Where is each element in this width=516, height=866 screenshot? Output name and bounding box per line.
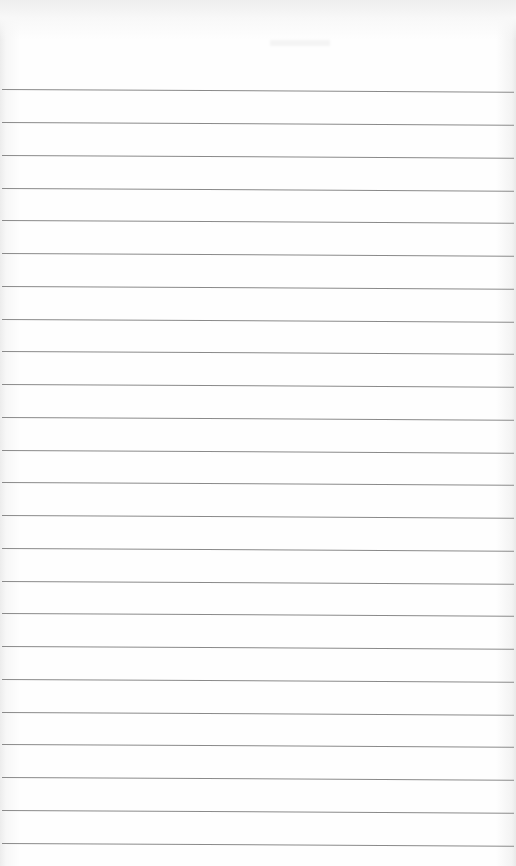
ruled-paper xyxy=(0,0,516,866)
bleed-through-mark xyxy=(270,40,330,46)
top-margin xyxy=(0,0,516,40)
